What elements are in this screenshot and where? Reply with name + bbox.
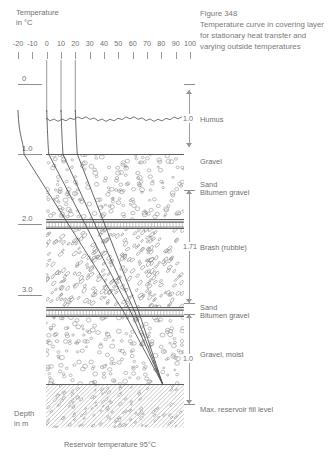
material-label: Gravel, moist xyxy=(200,350,244,359)
material-label: Brash (rubble) xyxy=(200,243,247,252)
material-label: Gravel xyxy=(200,157,222,166)
material-label: Humus xyxy=(200,115,223,124)
material-label: Bitumen gravel xyxy=(200,188,249,197)
material-labels: HumusGravelSandBitumen gravelBrash (rubb… xyxy=(0,0,335,461)
material-label: Bitumen gravel xyxy=(200,311,249,320)
material-label: Max. reservoir fill level xyxy=(200,405,273,414)
reservoir-temperature-caption: Reservoir temperature 95°C xyxy=(64,440,156,449)
